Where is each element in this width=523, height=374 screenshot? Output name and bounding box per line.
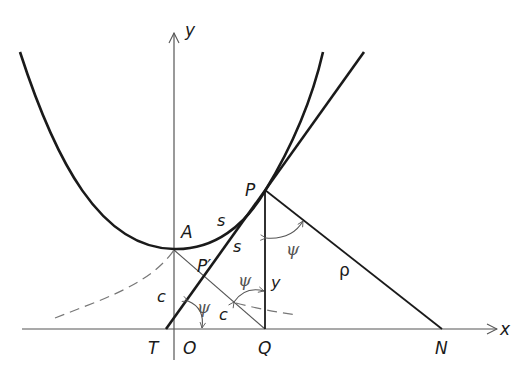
ordinate-y-label: y — [270, 273, 281, 292]
tractrix-dashed-curve — [55, 250, 174, 318]
point-label-O: O — [183, 338, 196, 358]
tangent-length-label: s — [233, 237, 241, 256]
OA-length-label: c — [157, 287, 166, 306]
PprimeQ-length-label: c — [219, 305, 228, 324]
point-label-A: A — [180, 222, 193, 242]
angle-psi-at-P: ψ — [286, 239, 300, 259]
angle-arc-at-Q — [234, 290, 264, 302]
angle-arc-at-P — [266, 221, 303, 238]
arc-length-label: s — [217, 211, 225, 230]
angle-psi-at-Q: ψ — [238, 270, 252, 290]
angle-psi-at-T: ψ — [197, 297, 211, 317]
radius-rho-label: ρ — [339, 260, 350, 280]
point-label-Q: Q — [258, 338, 271, 358]
y-axis-label: y — [184, 20, 196, 40]
point-label-P: P — [245, 180, 256, 200]
tractrix-dashed-curve-right — [236, 303, 298, 315]
point-label-N: N — [435, 338, 448, 358]
x-axis-label: x — [499, 319, 511, 339]
catenary-curve — [20, 52, 323, 249]
normal-P-N — [265, 190, 442, 329]
catenary-diagram: x y A P P′ T O Q N s s c c y ρ ψ ψ ψ — [0, 0, 523, 374]
point-label-P-prime: P′ — [197, 256, 211, 276]
point-label-T: T — [148, 338, 160, 358]
